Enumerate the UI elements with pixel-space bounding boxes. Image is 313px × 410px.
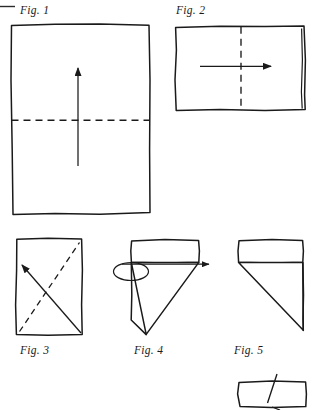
- fig3-fold-direction-arrow: [22, 265, 81, 333]
- fig6-partial-outline: [238, 381, 307, 408]
- fig2-folded-edge-line: [301, 28, 302, 108]
- origami-instruction-page: Fig. 1 Fig. 2 Fig. 3 Fig. 4 Fig. 5: [0, 0, 313, 410]
- fig4-drawing: [114, 240, 210, 335]
- fig3-drawing: [16, 238, 83, 335]
- fig4-triangle-flap: [131, 262, 199, 334]
- fig5-drawing: [238, 240, 304, 331]
- fig6-partial-drawing: [238, 374, 307, 410]
- fig3-diagonal-fold-line: [20, 243, 80, 332]
- fig1-drawing: [11, 24, 150, 215]
- fig5-triangle-flap: [239, 262, 304, 330]
- fig4-triangle-left-edge: [131, 263, 146, 335]
- fig4-caption: Fig. 4: [134, 344, 163, 356]
- fig3-caption: Fig. 3: [20, 344, 49, 356]
- fig2-paper-outline: [175, 26, 305, 111]
- fig1-paper-outline: [11, 24, 150, 215]
- fig2-caption: Fig. 2: [176, 4, 205, 16]
- fig3-paper-outline: [16, 238, 83, 335]
- fig5-triangle-right-edge: [303, 263, 304, 330]
- fig4-turn-over-loop-icon: [114, 263, 149, 281]
- fig4-top-rectangle: [131, 240, 200, 263]
- fig2-drawing: [175, 26, 305, 111]
- fig1-caption: Fig. 1: [20, 4, 49, 16]
- fig5-caption: Fig. 5: [234, 344, 263, 356]
- fig6-partial-fold-line: [268, 374, 278, 403]
- fig5-top-rectangle: [238, 240, 303, 263]
